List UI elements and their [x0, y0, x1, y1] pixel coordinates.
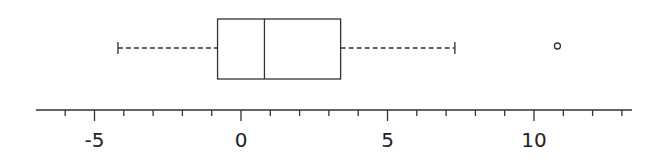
tick-label: 0 [235, 128, 248, 152]
x-axis: -50510 [36, 110, 632, 152]
tick-label: 10 [521, 128, 546, 152]
boxplot-chart: -50510 [0, 0, 653, 159]
tick-label: 5 [381, 128, 394, 152]
iqr-box [218, 19, 341, 79]
box-layer [118, 19, 561, 79]
tick-label: -5 [85, 128, 105, 152]
outlier-point [554, 43, 560, 49]
